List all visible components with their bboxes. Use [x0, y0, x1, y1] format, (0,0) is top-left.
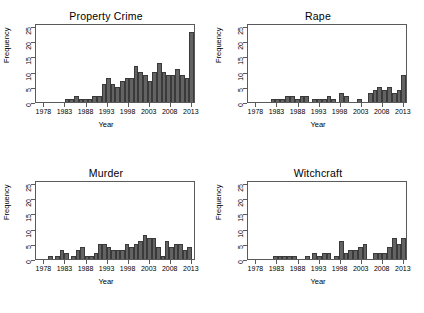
bar: [363, 244, 368, 259]
x-axis: 19781983198819931998200320082013: [247, 260, 407, 268]
y-tick-label: 15: [238, 214, 245, 222]
x-tick: [298, 260, 299, 264]
panel-property-crime: Property CrimeFrequency05101520251978198…: [0, 0, 212, 156]
panel-witchcraft: WitchcraftFrequency051015202519781983198…: [212, 157, 424, 313]
y-tick-label: 10: [26, 73, 33, 81]
x-tick-label: 1988: [78, 265, 94, 272]
x-tick-label: 2013: [395, 265, 411, 272]
x-tick-label: 2013: [183, 265, 199, 272]
y-tick-label: 20: [238, 42, 245, 50]
x-axis: 19781983198819931998200320082013: [35, 260, 195, 268]
x-axis-title: Year: [212, 121, 424, 129]
x-tick: [64, 260, 65, 264]
bar: [292, 256, 297, 259]
x-tick: [340, 103, 341, 107]
bar: [64, 253, 68, 259]
x-tick: [43, 103, 44, 107]
x-tick: [86, 103, 87, 107]
x-tick-label: 1998: [120, 108, 136, 115]
x-tick: [191, 260, 192, 264]
y-axis: 0510152025: [28, 24, 35, 103]
panel-title: Property Crime: [0, 10, 212, 22]
y-tick-label: 20: [26, 42, 33, 50]
bar-series: [248, 182, 406, 259]
y-tick-label: 25: [26, 27, 33, 35]
y-tick-label: 25: [238, 27, 245, 35]
x-tick: [64, 103, 65, 107]
y-tick-label: 15: [26, 214, 33, 222]
x-tick-label: 1998: [120, 265, 136, 272]
x-tick: [319, 103, 320, 107]
x-tick-label: 2013: [395, 108, 411, 115]
y-tick-label: 5: [26, 245, 33, 249]
x-tick-label: 1978: [36, 265, 52, 272]
x-tick-label: 1998: [332, 265, 348, 272]
panel-title: Rape: [212, 10, 424, 22]
x-tick: [276, 103, 277, 107]
bar: [327, 253, 332, 259]
x-tick-label: 1983: [269, 265, 285, 272]
x-tick-label: 1993: [99, 265, 115, 272]
y-tick-label: 15: [26, 57, 33, 65]
x-tick-label: 2008: [374, 108, 390, 115]
x-tick: [170, 103, 171, 107]
x-tick-label: 1998: [332, 108, 348, 115]
y-axis-title: Frequency: [3, 185, 11, 220]
x-tick-label: 1978: [248, 108, 264, 115]
x-axis: 19781983198819931998200320082013: [35, 103, 195, 111]
x-axis: 19781983198819931998200320082013: [247, 103, 407, 111]
bar: [48, 256, 52, 259]
x-tick-label: 1983: [57, 265, 73, 272]
x-tick-label: 1993: [311, 265, 327, 272]
x-tick-label: 2003: [141, 108, 157, 115]
x-tick: [319, 260, 320, 264]
bar-series: [36, 25, 194, 102]
x-tick-label: 1988: [290, 108, 306, 115]
x-tick: [43, 260, 44, 264]
x-tick-label: 1993: [311, 108, 327, 115]
bar: [344, 96, 349, 102]
x-tick-label: 1978: [248, 265, 264, 272]
x-tick: [361, 260, 362, 264]
x-tick-label: 2003: [141, 265, 157, 272]
x-tick: [107, 260, 108, 264]
x-tick-label: 1988: [78, 108, 94, 115]
x-tick: [298, 103, 299, 107]
x-tick: [382, 260, 383, 264]
x-tick-label: 2008: [162, 108, 178, 115]
x-tick: [107, 103, 108, 107]
x-tick: [276, 260, 277, 264]
bar: [187, 247, 191, 259]
x-tick-label: 2008: [162, 265, 178, 272]
panel-rape: RapeFrequency051015202519781983198819931…: [212, 0, 424, 156]
x-axis-title: Year: [0, 121, 212, 129]
bar: [401, 75, 406, 102]
y-tick-label: 25: [26, 184, 33, 192]
x-tick: [128, 103, 129, 107]
y-tick-label: 5: [238, 88, 245, 92]
bar: [331, 99, 336, 102]
x-tick-label: 1993: [99, 108, 115, 115]
y-tick-label: 0: [26, 260, 33, 264]
x-tick: [149, 260, 150, 264]
x-tick-label: 1983: [57, 108, 73, 115]
x-tick-label: 2003: [353, 265, 369, 272]
y-tick-label: 0: [26, 103, 33, 107]
bar: [305, 256, 310, 259]
x-tick-label: 2008: [374, 265, 390, 272]
y-tick-label: 10: [238, 230, 245, 238]
x-tick: [191, 103, 192, 107]
x-tick: [255, 103, 256, 107]
y-tick-label: 25: [238, 184, 245, 192]
y-axis-title: Frequency: [215, 28, 223, 63]
bar: [357, 99, 362, 102]
plot-area: [35, 24, 195, 103]
bar-series: [36, 182, 194, 259]
x-tick: [340, 260, 341, 264]
x-tick-label: 1983: [269, 108, 285, 115]
x-tick-label: 1988: [290, 265, 306, 272]
x-tick: [361, 103, 362, 107]
x-tick: [170, 260, 171, 264]
x-axis-title: Year: [0, 278, 212, 286]
panel-title: Murder: [0, 167, 212, 179]
